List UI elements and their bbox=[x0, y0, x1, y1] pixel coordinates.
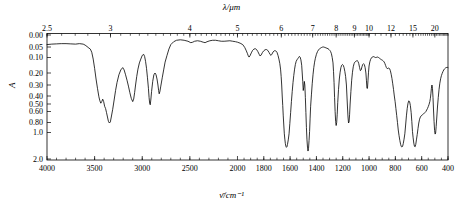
svg-text:1200: 1200 bbox=[335, 164, 351, 173]
bottom-axis-ticks bbox=[47, 156, 448, 160]
svg-text:600: 600 bbox=[416, 164, 428, 173]
svg-text:9: 9 bbox=[352, 24, 356, 33]
plot-frame bbox=[47, 34, 448, 161]
svg-text:10: 10 bbox=[365, 24, 373, 33]
svg-text:1800: 1800 bbox=[256, 164, 272, 173]
svg-text:4000: 4000 bbox=[39, 164, 55, 173]
svg-text:0.60: 0.60 bbox=[29, 107, 43, 116]
svg-text:1.0: 1.0 bbox=[33, 128, 43, 137]
spectrum-curve bbox=[47, 40, 448, 151]
svg-text:0.05: 0.05 bbox=[29, 43, 43, 52]
svg-text:5: 5 bbox=[235, 24, 239, 33]
svg-text:6: 6 bbox=[279, 24, 283, 33]
bottom-axis-tick-labels: 4000350030002500200018001600140012001000… bbox=[39, 164, 454, 173]
spectrum-plot: 2.5345678910121520 400035003000250020001… bbox=[0, 0, 463, 203]
svg-text:0.00: 0.00 bbox=[29, 31, 43, 40]
top-axis-ticks bbox=[47, 34, 448, 38]
svg-text:0.80: 0.80 bbox=[29, 118, 43, 127]
svg-text:1400: 1400 bbox=[308, 164, 324, 173]
svg-text:1000: 1000 bbox=[361, 164, 377, 173]
y-axis-ticks bbox=[47, 35, 51, 159]
svg-text:2.0: 2.0 bbox=[33, 155, 43, 164]
svg-text:12: 12 bbox=[387, 24, 395, 33]
svg-text:3: 3 bbox=[108, 24, 112, 33]
y-axis-tick-labels: 0.000.050.100.200.300.400.500.600.801.02… bbox=[29, 31, 43, 164]
ir-spectrum-figure: λ/μm A ν̄/cm⁻¹ 2.5345678910121520 400035… bbox=[0, 0, 463, 203]
svg-text:4: 4 bbox=[188, 24, 192, 33]
svg-text:3000: 3000 bbox=[134, 164, 150, 173]
svg-text:400: 400 bbox=[442, 164, 454, 173]
svg-text:3500: 3500 bbox=[87, 164, 103, 173]
top-axis-tick-labels: 2.5345678910121520 bbox=[42, 24, 439, 33]
svg-text:7: 7 bbox=[311, 24, 315, 33]
svg-text:2.5: 2.5 bbox=[42, 24, 52, 33]
svg-text:800: 800 bbox=[389, 164, 401, 173]
svg-text:0.20: 0.20 bbox=[29, 69, 43, 78]
svg-text:0.10: 0.10 bbox=[29, 53, 43, 62]
svg-text:8: 8 bbox=[334, 24, 338, 33]
svg-text:1600: 1600 bbox=[282, 164, 298, 173]
svg-text:0.30: 0.30 bbox=[29, 81, 43, 90]
svg-text:20: 20 bbox=[431, 24, 439, 33]
svg-text:15: 15 bbox=[409, 24, 417, 33]
svg-text:2500: 2500 bbox=[182, 164, 198, 173]
svg-text:2000: 2000 bbox=[229, 164, 245, 173]
